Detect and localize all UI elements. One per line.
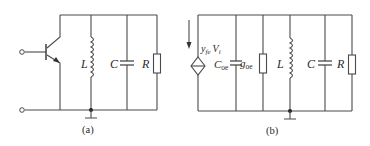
inductor-b-label: L [276, 57, 284, 71]
resistor-b-label: R [336, 57, 345, 71]
capacitor-a-label: C [110, 57, 119, 71]
caption-b: (b) [266, 125, 279, 137]
caption-a: (a) [82, 124, 94, 136]
capacitor-b-label: C [307, 57, 316, 71]
input-terminal-top [20, 50, 25, 55]
circuit-b: yfeVi Coe goe L C R [187, 15, 356, 137]
ground-a-icon [85, 110, 97, 118]
resistor-a-body-icon [154, 54, 161, 73]
emitter-arrow-icon [53, 57, 60, 63]
resistor-a-label: R [141, 57, 150, 71]
current-direction-arrow-icon [187, 42, 192, 49]
circuit-diagram-figure: L C R (a) yfeVi [0, 0, 370, 146]
input-terminal-bottom [20, 108, 25, 113]
inductor-b-coil-icon [290, 38, 293, 78]
circuit-a: L C R (a) [20, 15, 161, 136]
inductor-a-label: L [80, 57, 88, 71]
resistor-b-body-icon [349, 55, 356, 74]
goe-body-icon [260, 54, 267, 73]
goe-label: goe [240, 57, 253, 71]
ground-b-icon [284, 111, 296, 119]
transistor-emitter-wire [47, 55, 60, 110]
inductor-a-coil-icon [91, 37, 94, 77]
source-label: yfeVi [200, 43, 221, 56]
transistor-collector-wire [47, 15, 60, 48]
coe-label: Coe [214, 58, 229, 72]
